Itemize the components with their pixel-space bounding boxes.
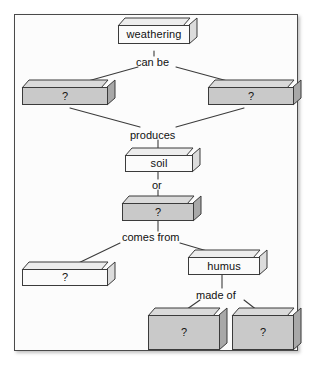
line-right-to-produces [176, 108, 244, 127]
branch-right-side-face [293, 80, 301, 105]
humus-front-face: humus [188, 257, 260, 275]
branch-right-front-face: ? [208, 87, 294, 105]
humus-part-left-front-face: ? [148, 315, 220, 350]
line-left-to-produces [70, 108, 140, 127]
node-label: ? [62, 91, 68, 102]
node-soil-component[interactable]: ? [122, 196, 194, 221]
soil-side-face [192, 148, 200, 172]
node-label: ? [155, 207, 161, 218]
node-label: soil [151, 158, 168, 169]
source-left-side-face [107, 262, 115, 286]
branch-left-side-face [107, 80, 115, 105]
humus-part-right-front-face: ? [232, 315, 294, 350]
connector-label-made-of: made of [196, 290, 236, 301]
soil-component-side-face [193, 196, 201, 221]
humus-side-face [259, 250, 267, 275]
node-humus-part-left[interactable]: ? [148, 308, 220, 350]
source-left-front-face: ? [22, 269, 108, 286]
node-label: ? [62, 272, 68, 283]
node-label: ? [260, 327, 266, 338]
humus-part-left-side-face [219, 308, 227, 350]
node-label: humus [207, 261, 241, 272]
connector-label-can-be: can be [136, 57, 169, 68]
branch-left-front-face: ? [22, 87, 108, 105]
soil-component-front-face: ? [122, 203, 194, 221]
diagram-canvas: weathering ? ? soil [0, 0, 314, 371]
node-weathering[interactable]: weathering [118, 18, 190, 44]
node-branch-left[interactable]: ? [22, 80, 108, 105]
node-label: weathering [127, 29, 182, 40]
connector-label-produces: produces [130, 130, 175, 141]
node-soil[interactable]: soil [125, 148, 193, 172]
weathering-side-face [189, 18, 197, 44]
connector-label-or: or [152, 180, 162, 191]
node-label: ? [181, 327, 187, 338]
humus-part-right-side-face [293, 308, 301, 350]
weathering-front-face: weathering [118, 25, 190, 44]
node-source-left[interactable]: ? [22, 262, 108, 286]
soil-front-face: soil [125, 155, 193, 172]
node-humus[interactable]: humus [188, 250, 260, 275]
node-branch-right[interactable]: ? [208, 80, 294, 105]
connector-label-comes-from: comes from [122, 232, 179, 243]
node-label: ? [248, 91, 254, 102]
node-humus-part-right[interactable]: ? [232, 308, 294, 350]
